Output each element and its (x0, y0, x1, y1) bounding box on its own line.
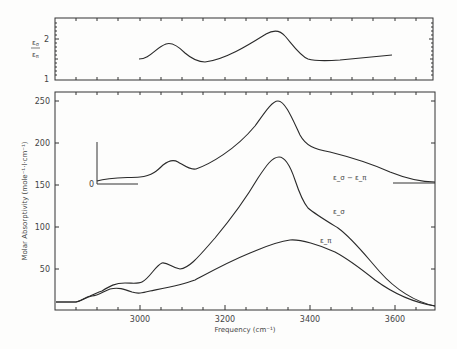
y-axis-label: Molar Absorptivity (mole⁻¹·l·cm⁻¹) (21, 141, 29, 260)
ytick-250: 250 (35, 97, 50, 106)
difference-inset-axes (97, 142, 435, 184)
epsilon-sigma-curve (56, 157, 435, 306)
ratio-curve (139, 31, 392, 62)
ratio-y-ticks (55, 23, 433, 75)
ytick-200: 200 (35, 139, 50, 148)
ytick-150: 150 (35, 181, 50, 190)
epsilon-sigma-label: ε_σ (333, 208, 345, 216)
main-x-ticks (76, 92, 416, 310)
svg-text:επ: επ (32, 51, 39, 59)
difference-curve-label: ε_σ − ε_π (333, 174, 367, 182)
absorptivity-panel: 250 200 150 100 50 3000 3200 3400 3600 F… (21, 92, 435, 334)
xtick-3000: 3000 (130, 315, 150, 324)
xtick-3200: 3200 (215, 315, 235, 324)
x-axis-label: Frequency (cm⁻¹) (214, 326, 275, 334)
xtick-3600: 3600 (385, 315, 405, 324)
ratio-panel: 2 1 εσ επ (31, 18, 433, 84)
epsilon-pi-label: ε_π (320, 237, 332, 245)
xtick-3400: 3400 (300, 315, 320, 324)
main-y-ticks (55, 101, 435, 269)
ytick-100: 100 (35, 223, 50, 232)
ratio-panel-frame (55, 18, 433, 80)
inset-zero-label: 0 (89, 180, 94, 189)
figure: 2 1 εσ επ 250 200 150 100 50 3000 3200 3… (0, 0, 457, 349)
ytick-50: 50 (40, 265, 50, 274)
ratio-ytick-2: 2 (44, 35, 49, 44)
difference-curve (97, 101, 435, 182)
svg-text:εσ: εσ (32, 39, 40, 47)
ratio-y-label: εσ επ (31, 39, 40, 59)
main-panel-frame (55, 92, 435, 310)
ratio-ytick-1: 1 (44, 75, 49, 84)
ratio-x-ticks (76, 18, 416, 80)
epsilon-pi-curve (56, 240, 435, 306)
